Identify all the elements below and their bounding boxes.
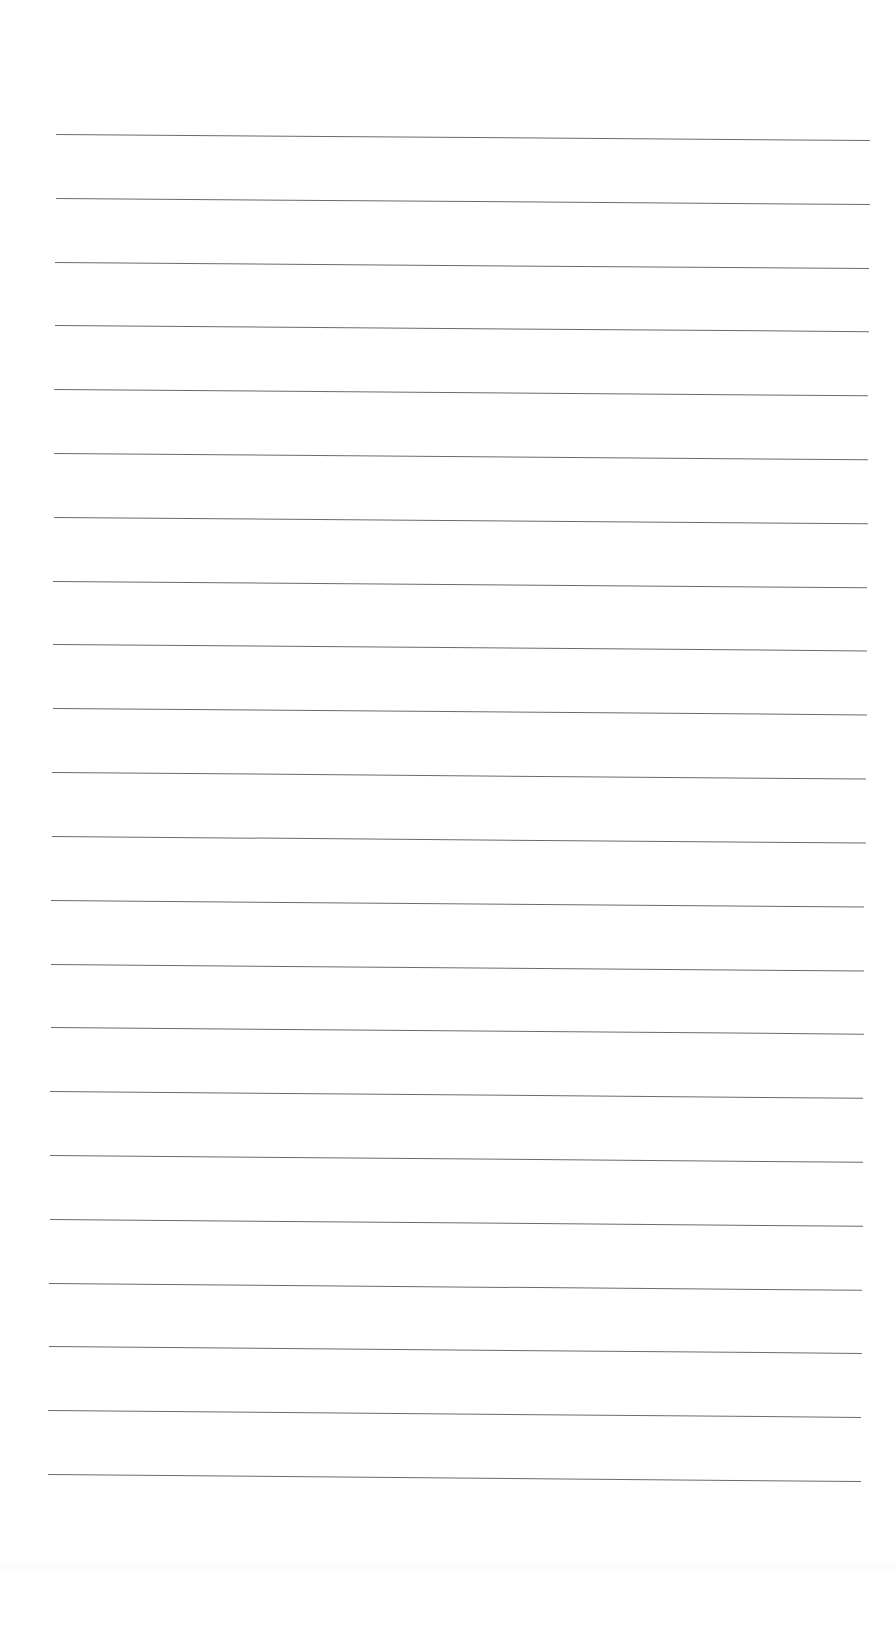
ruled-line <box>54 389 868 396</box>
ruled-line <box>55 325 869 332</box>
ruled-line <box>50 1219 863 1227</box>
ruled-line <box>51 900 864 908</box>
ruled-line <box>50 1155 863 1163</box>
ruled-line <box>53 644 867 651</box>
ruled-line <box>52 836 865 844</box>
ruled-line <box>56 198 870 205</box>
ruled-line <box>52 772 866 779</box>
ruled-line <box>54 517 868 524</box>
ruled-line <box>51 964 864 972</box>
ruled-line <box>51 1027 864 1035</box>
ruled-line <box>49 1346 862 1354</box>
ruled-line <box>54 453 868 460</box>
ruled-line <box>56 134 870 141</box>
ruled-line <box>55 262 869 269</box>
ruled-lines <box>0 0 896 1638</box>
ruled-line <box>48 1410 861 1418</box>
ruled-line <box>53 708 867 715</box>
ruled-line <box>50 1091 863 1099</box>
scan-bleed-through <box>0 1562 896 1574</box>
ruled-page <box>0 0 896 1638</box>
ruled-line <box>49 1283 862 1291</box>
ruled-line <box>53 581 867 588</box>
ruled-line <box>48 1474 861 1482</box>
